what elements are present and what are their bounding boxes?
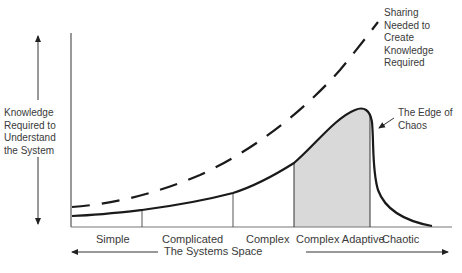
category-complicated: Complicated: [162, 233, 223, 245]
y-axis-label: Knowledge Required to Understand the Sys…: [4, 107, 66, 157]
edge-of-chaos-annotation: The Edge of Chaos: [398, 107, 453, 132]
category-complex-adaptive: Complex Adaptive: [296, 233, 385, 245]
edge-of-chaos-arrow: [379, 118, 394, 128]
category-simple: Simple: [96, 233, 130, 245]
knowledge-curve: [72, 109, 432, 227]
x-axis-label: The Systems Space: [158, 245, 268, 257]
category-chaotic: Chaotic: [382, 233, 419, 245]
category-complex: Complex: [246, 233, 289, 245]
sharing-needed-annotation: Sharing Needed to Create Knowledge Requi…: [384, 7, 454, 70]
